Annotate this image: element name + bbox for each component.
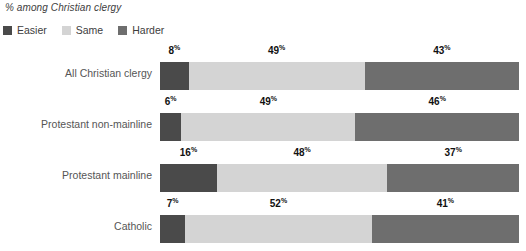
value-label-harder: 46% — [407, 95, 467, 108]
value-label-harder: 43% — [412, 44, 472, 57]
chart-title: % among Christian clergy — [5, 2, 121, 13]
value-label-same: 49% — [238, 95, 298, 108]
stacked-bar — [160, 62, 519, 90]
chart-row: Protestant mainline 16% 48% 37% — [0, 142, 526, 192]
percent-sign: % — [191, 146, 197, 153]
percent-sign: % — [170, 95, 176, 102]
legend-item-easier: Easier — [3, 25, 47, 36]
value-label-easier: 6% — [141, 95, 201, 108]
percent-sign: % — [281, 197, 287, 204]
percent-sign: % — [444, 44, 450, 51]
value-label-easier: 16% — [158, 146, 218, 159]
row-label-catholic: Catholic — [0, 219, 152, 233]
chart-row: Protestant non-mainline 6% 49% 46% — [0, 91, 526, 141]
value-label-same: 48% — [272, 146, 332, 159]
row-value-labels: 16% 48% 37% — [160, 146, 519, 162]
value-number-same: 49 — [268, 45, 279, 56]
row-label-protestant-non-mainline: Protestant non-mainline — [0, 117, 152, 131]
value-number-harder: 46 — [429, 96, 440, 107]
bar-segment-same — [185, 215, 372, 243]
row-label-protestant-mainline: Protestant mainline — [0, 168, 152, 182]
legend-swatch-harder-icon — [118, 26, 127, 35]
value-label-same: 52% — [248, 197, 308, 210]
legend-label-easier: Easier — [17, 25, 47, 36]
chart-legend: Easier Same Harder — [3, 24, 164, 37]
percent-sign: % — [174, 44, 180, 51]
legend-swatch-same-icon — [62, 26, 71, 35]
value-label-harder: 41% — [415, 197, 475, 210]
bar-segment-harder — [365, 62, 519, 90]
chart-row: Catholic 7% 52% 41% — [0, 193, 526, 243]
bar-segment-harder — [372, 215, 519, 243]
legend-item-harder: Harder — [118, 25, 164, 36]
stacked-bar — [160, 215, 519, 243]
stacked-bar — [160, 113, 519, 141]
percent-sign: % — [440, 95, 446, 102]
bar-segment-harder — [387, 164, 519, 192]
stacked-bar-chart: % among Christian clergy Easier Same Har… — [0, 0, 526, 251]
value-number-same: 52 — [270, 198, 281, 209]
bar-segment-easier — [160, 62, 189, 90]
percent-sign: % — [305, 146, 311, 153]
percent-sign: % — [271, 95, 277, 102]
value-number-same: 48 — [293, 147, 304, 158]
value-label-easier: 8% — [144, 44, 204, 57]
legend-label-harder: Harder — [132, 25, 164, 36]
bar-segment-same — [217, 164, 388, 192]
value-number-harder: 43 — [433, 45, 444, 56]
value-label-same: 49% — [247, 44, 307, 57]
bar-segment-easier — [160, 113, 181, 141]
row-value-labels: 8% 49% 43% — [160, 44, 519, 60]
percent-sign: % — [448, 197, 454, 204]
bar-segment-easier — [160, 164, 217, 192]
value-number-harder: 37 — [445, 147, 456, 158]
bar-segment-easier — [160, 215, 185, 243]
value-label-easier: 7% — [143, 197, 203, 210]
percent-sign: % — [279, 44, 285, 51]
legend-item-same: Same — [62, 25, 103, 36]
row-value-labels: 6% 49% 46% — [160, 95, 519, 111]
row-label-all-christian-clergy: All Christian clergy — [0, 66, 152, 80]
legend-swatch-easier-icon — [3, 26, 12, 35]
stacked-bar — [160, 164, 519, 192]
percent-sign: % — [456, 146, 462, 153]
bar-segment-harder — [355, 113, 519, 141]
row-value-labels: 7% 52% 41% — [160, 197, 519, 213]
chart-plot-area: All Christian clergy 8% 49% 43% Protest — [0, 40, 526, 251]
value-number-harder: 41 — [437, 198, 448, 209]
chart-row: All Christian clergy 8% 49% 43% — [0, 40, 526, 90]
legend-label-same: Same — [76, 25, 103, 36]
value-label-harder: 37% — [423, 146, 483, 159]
value-number-same: 49 — [260, 96, 271, 107]
bar-segment-same — [189, 62, 365, 90]
percent-sign: % — [172, 197, 178, 204]
value-number-easier: 16 — [180, 147, 191, 158]
bar-segment-same — [181, 113, 355, 141]
